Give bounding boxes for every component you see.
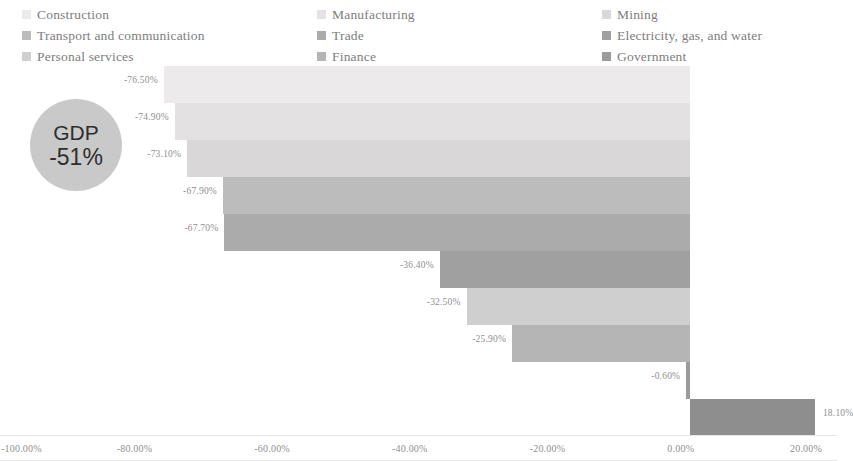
legend-swatch-icon <box>22 31 31 40</box>
legend-item-manufacturing[interactable]: Manufacturing <box>295 4 580 25</box>
legend-item-label: Construction <box>37 6 109 23</box>
bar-segment[interactable] <box>187 140 690 177</box>
axis-tick-label: -60.00% <box>254 442 290 455</box>
legend-item-label: Transport and communication <box>37 27 205 44</box>
bar-segment[interactable] <box>467 288 691 325</box>
bar-value-label: -67.90% <box>171 185 217 197</box>
bar-segment[interactable] <box>686 362 690 399</box>
bar-value-label: -76.50% <box>112 74 158 86</box>
x-axis: -100.00%-80.00%-60.00%-40.00%-20.00%0.00… <box>0 435 837 461</box>
axis-divider-top <box>0 435 837 436</box>
bar-value-label: -73.10% <box>135 148 181 160</box>
axis-tick-label: -40.00% <box>392 442 428 455</box>
legend-swatch-icon <box>602 31 611 40</box>
bar-segment[interactable] <box>164 66 691 103</box>
legend-swatch-icon <box>22 10 31 19</box>
bar-segment[interactable] <box>175 103 691 140</box>
bar-value-label: -32.50% <box>415 296 461 308</box>
bar-value-label: -36.40% <box>388 259 434 271</box>
bar-value-label: -74.90% <box>123 111 169 123</box>
legend-item-transport-and-communication[interactable]: Transport and communication <box>0 25 295 46</box>
legend-item-mining[interactable]: Mining <box>580 4 837 25</box>
legend-item-electricity-gas-and-water[interactable]: Electricity, gas, and water <box>580 25 837 46</box>
bar-value-label: -25.90% <box>460 333 506 345</box>
legend-item-trade[interactable]: Trade <box>295 25 580 46</box>
legend-swatch-icon <box>22 52 31 61</box>
axis-tick-label: -100.00% <box>1 442 42 455</box>
legend-item-label: Trade <box>332 27 364 44</box>
gdp-bubble-value: -51% <box>49 145 103 170</box>
plot-area: -76.50%-74.90%-73.10%-67.90%-67.70%-36.4… <box>0 62 837 435</box>
legend-swatch-icon <box>602 10 611 19</box>
bar-segment[interactable] <box>440 251 691 288</box>
legend-item-construction[interactable]: Construction <box>0 4 295 25</box>
bar-value-label: 18.10% <box>823 407 853 419</box>
bar-value-label: -67.70% <box>172 222 218 234</box>
legend-swatch-icon <box>602 52 611 61</box>
axis-tick-label: 20.00% <box>790 442 822 455</box>
legend-item-label: Manufacturing <box>332 6 415 23</box>
legend-swatch-icon <box>317 52 326 61</box>
axis-tick-label: -20.00% <box>530 442 566 455</box>
bar-segment[interactable] <box>224 214 690 251</box>
bar-segment[interactable] <box>223 177 690 214</box>
gdp-bubble-title: GDP <box>53 120 99 145</box>
legend-item-label: Mining <box>617 6 658 23</box>
bar-value-label: -0.60% <box>634 370 680 382</box>
chart-legend: ConstructionManufacturingMiningTransport… <box>0 0 837 62</box>
bar-segment[interactable] <box>690 399 815 436</box>
gdp-summary-bubble: GDP -51% <box>30 99 122 191</box>
axis-tick-label: -80.00% <box>117 442 153 455</box>
legend-item-label: Electricity, gas, and water <box>617 27 762 44</box>
axis-tick-label: 0.00% <box>667 442 694 455</box>
chart-container: -76.50%-74.90%-73.10%-67.90%-67.70%-36.4… <box>0 62 837 461</box>
legend-swatch-icon <box>317 10 326 19</box>
legend-swatch-icon <box>317 31 326 40</box>
bar-segment[interactable] <box>512 325 690 362</box>
